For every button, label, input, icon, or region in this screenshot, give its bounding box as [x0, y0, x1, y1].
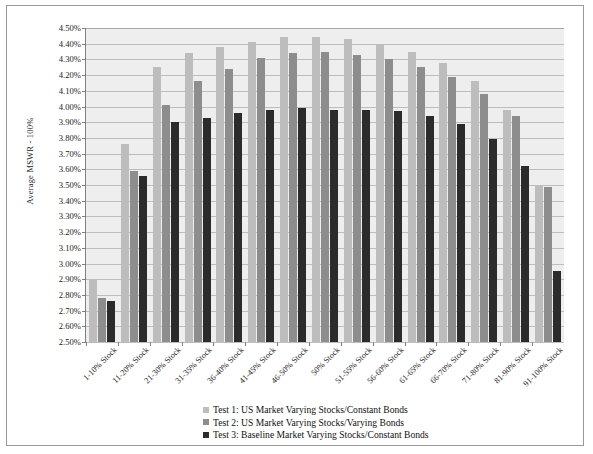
y-tick-label: 4.00% [59, 102, 81, 111]
chart-frame: Average MSWR - 100% 4.50%4.40%4.30%4.20%… [6, 5, 584, 446]
bar-group [500, 28, 532, 342]
y-tick-label: 3.30% [59, 212, 81, 221]
bar[interactable] [362, 110, 370, 342]
bar[interactable] [289, 53, 297, 342]
bar[interactable] [439, 63, 447, 342]
bar[interactable] [139, 176, 147, 342]
y-axis-title: Average MSWR - 100% [25, 96, 35, 226]
legend-swatch-icon [203, 432, 209, 438]
bar[interactable] [153, 67, 161, 342]
x-axis-tick-labels: 1-10% Stock11-20% Stock21-30% Stock31-35… [85, 346, 563, 408]
bar[interactable] [457, 124, 465, 342]
x-tick-label: 50% Stock [310, 346, 342, 378]
bar[interactable] [448, 77, 456, 342]
legend-item[interactable]: Test 1: US Market Varying Stocks/Constan… [203, 404, 429, 415]
bar[interactable] [535, 185, 543, 342]
legend-item[interactable]: Test 2: US Market Varying Stocks/Varying… [203, 417, 429, 428]
bar[interactable] [394, 111, 402, 342]
bar[interactable] [257, 58, 265, 342]
y-tick-label: 4.50% [59, 24, 81, 33]
bar[interactable] [408, 52, 416, 342]
y-tick-label: 3.10% [59, 244, 81, 253]
legend-item[interactable]: Test 3: Baseline Market Varying Stocks/C… [203, 429, 429, 440]
bar[interactable] [194, 81, 202, 342]
bar[interactable] [521, 166, 529, 342]
bar[interactable] [162, 105, 170, 342]
bar[interactable] [321, 52, 329, 342]
y-tick-label: 4.40% [59, 39, 81, 48]
bar[interactable] [89, 279, 97, 342]
y-tick-label: 4.20% [59, 71, 81, 80]
bar-group [532, 28, 564, 342]
bar-group [309, 28, 341, 342]
bar[interactable] [107, 301, 115, 342]
bar-group [436, 28, 468, 342]
bar-group [468, 28, 500, 342]
bar[interactable] [266, 110, 274, 342]
bar-group [373, 28, 405, 342]
bar[interactable] [312, 37, 320, 342]
bar[interactable] [98, 298, 106, 342]
y-tick-label: 3.50% [59, 181, 81, 190]
chart-legend: Test 1: US Market Varying Stocks/Constan… [203, 404, 429, 442]
bar[interactable] [330, 110, 338, 342]
bar-group [213, 28, 245, 342]
bar-group [182, 28, 214, 342]
bar[interactable] [385, 59, 393, 342]
y-tick-label: 3.80% [59, 134, 81, 143]
bar[interactable] [480, 94, 488, 342]
bar[interactable] [417, 67, 425, 342]
y-tick-label: 3.00% [59, 259, 81, 268]
bar[interactable] [489, 139, 497, 342]
bar[interactable] [298, 108, 306, 342]
plot-area [85, 28, 564, 343]
y-tick-label: 4.30% [59, 55, 81, 64]
y-tick-label: 3.20% [59, 228, 81, 237]
y-tick-label: 2.50% [59, 338, 81, 347]
y-tick-label: 2.60% [59, 322, 81, 331]
legend-label: Test 1: US Market Varying Stocks/Constan… [213, 404, 408, 415]
bar-group [277, 28, 309, 342]
bar[interactable] [512, 116, 520, 342]
bar[interactable] [426, 116, 434, 342]
bar[interactable] [353, 55, 361, 342]
bar[interactable] [225, 69, 233, 342]
bar[interactable] [248, 42, 256, 342]
legend-label: Test 3: Baseline Market Varying Stocks/C… [213, 429, 429, 440]
y-tick-label: 2.80% [59, 291, 81, 300]
y-axis-tick-labels: 4.50%4.40%4.30%4.20%4.10%4.00%3.90%3.80%… [37, 28, 81, 342]
y-tick-label: 3.60% [59, 165, 81, 174]
bar-group [405, 28, 437, 342]
bar[interactable] [376, 44, 384, 342]
bar-group [86, 28, 118, 342]
y-tick-label: 3.70% [59, 149, 81, 158]
bar[interactable] [471, 81, 479, 342]
legend-swatch-icon [203, 407, 209, 413]
bar-group [341, 28, 373, 342]
bar[interactable] [234, 113, 242, 342]
y-tick-label: 3.90% [59, 118, 81, 127]
bar[interactable] [503, 110, 511, 342]
bar-group [150, 28, 182, 342]
bar[interactable] [121, 144, 129, 342]
y-tick-label: 4.10% [59, 87, 81, 96]
y-tick-label: 2.90% [59, 275, 81, 284]
bar[interactable] [344, 39, 352, 342]
gridline [86, 342, 564, 343]
bar[interactable] [216, 47, 224, 342]
y-tick-label: 3.40% [59, 196, 81, 205]
bar[interactable] [171, 122, 179, 342]
bar[interactable] [280, 37, 288, 342]
legend-swatch-icon [203, 419, 209, 425]
bar[interactable] [544, 187, 552, 342]
bar[interactable] [130, 171, 138, 342]
y-tick-label: 2.70% [59, 306, 81, 315]
bar[interactable] [203, 118, 211, 343]
bar-groups [86, 28, 564, 342]
bar[interactable] [553, 271, 561, 342]
bar-group [118, 28, 150, 342]
bar[interactable] [185, 53, 193, 342]
bar-group [245, 28, 277, 342]
legend-label: Test 2: US Market Varying Stocks/Varying… [213, 417, 404, 428]
